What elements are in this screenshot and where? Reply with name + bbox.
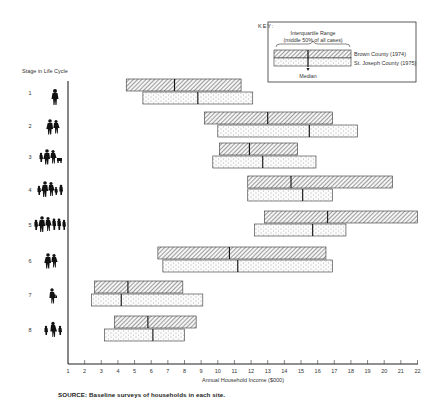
arrow-up-icon [307,68,310,71]
stage-icons [34,89,66,337]
x-tick-label: 10 [215,368,221,374]
x-tick-label: 1 [66,368,69,374]
x-tick-label: 16 [315,368,321,374]
brown-county-bar [204,112,332,124]
x-tick-label: 4 [116,368,119,374]
y-axis-title: Stage in Life Cycle [22,68,68,74]
x-axis-ticks: 12345678910111213141516171819202122 [66,360,420,374]
st-joseph-county-bar [254,224,346,236]
stage-label: 7 [28,292,31,298]
stage-labels: 12345678 [28,90,31,333]
large-family-icon [34,216,66,232]
stage-label: 6 [28,258,31,264]
st-joseph-county-bar [213,156,316,168]
x-tick-label: 17 [331,368,337,374]
x-tick-label: 12 [248,368,254,374]
stage-1-bars [126,79,252,104]
single-older-adult-icon [49,288,57,303]
stage-4-bars [248,176,393,201]
x-tick-label: 7 [166,368,169,374]
brown-county-bar [248,176,393,188]
stage-label: 4 [28,187,31,193]
source-note: SOURCE: Baseline surveys of households i… [58,391,225,398]
brown-county-bar [95,281,183,293]
stage-label: 1 [28,90,31,96]
stage-3-bars [213,143,316,168]
brown-county-bar [158,247,326,259]
key-swatch-brown [274,50,351,58]
x-tick-label: 14 [281,368,287,374]
x-tick-label: 8 [183,368,186,374]
x-tick-label: 3 [100,368,103,374]
legend-key: KEY: Interquartile Range (middle 50% of … [258,22,417,82]
x-tick-label: 15 [298,368,304,374]
x-tick-label: 21 [398,368,404,374]
key-range-label: Interquartile Range [290,30,335,36]
stage-6-bars [158,247,333,272]
x-tick-label: 18 [348,368,354,374]
st-joseph-county-bar [163,260,333,272]
st-joseph-county-bar [218,125,358,137]
stage-8-bars [105,316,197,341]
x-tick-label: 2 [83,368,86,374]
couple-with-children-icon [38,181,64,197]
stage-label: 5 [28,222,31,228]
x-tick-label: 20 [381,368,387,374]
brown-county-bar [264,211,417,223]
stage-5-bars [254,211,417,236]
st-joseph-county-bar [91,294,203,306]
key-range-sublabel: (middle 50% of all cases) [283,37,342,43]
couple-icon [46,119,59,134]
stage-7-bars [91,281,203,306]
x-tick-label: 5 [133,368,136,374]
income-range-chart: KEY: Interquartile Range (middle 50% of … [0,0,441,411]
x-axis-title: Annual Household Income ($000) [202,377,284,383]
x-tick-label: 9 [200,368,203,374]
single-adult-icon [52,89,59,105]
brown-county-bar [126,79,241,91]
x-tick-label: 6 [150,368,153,374]
st-joseph-county-bar [105,329,185,341]
older-couple-icon [44,253,57,268]
brown-county-bar [219,143,297,155]
stage-label: 8 [28,327,31,333]
stage-label: 2 [28,123,31,129]
brown-county-bar [115,316,197,328]
x-tick-label: 19 [365,368,371,374]
key-label-stjoseph: St. Joseph County (1975) [354,60,417,66]
key-title: KEY: [258,23,274,29]
single-parent-with-children-icon [45,322,63,337]
x-tick-label: 22 [414,368,420,374]
st-joseph-county-bar [248,189,333,201]
key-swatch-stjoseph [274,58,351,66]
key-label-brown: Brown County (1974) [354,51,406,57]
couple-with-young-children-icon [40,149,63,164]
x-tick-label: 11 [232,368,238,374]
x-tick-label: 13 [265,368,271,374]
bars [91,79,417,341]
stage-label: 3 [28,154,31,160]
stage-2-bars [204,112,357,137]
key-median-label: Median [299,73,316,79]
